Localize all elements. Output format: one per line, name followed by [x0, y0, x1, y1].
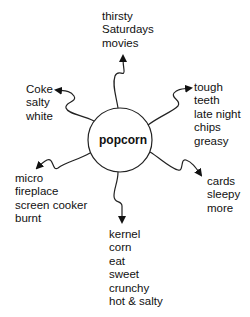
arrow-lower-right	[150, 152, 201, 175]
branch-word: tough	[194, 81, 241, 94]
branch-top: thirsty Saturdays movies	[102, 10, 154, 50]
arrow-upper-right	[148, 88, 191, 125]
branch-word: fireplace	[15, 185, 87, 198]
arrow-lower-left	[37, 153, 90, 169]
branch-word: crunchy	[109, 282, 163, 295]
branch-word: salty	[26, 96, 53, 109]
branch-word: greasy	[194, 135, 241, 148]
branch-word: movies	[102, 37, 154, 50]
branch-bottom: kernel corn eat sweet crunchy hot & salt…	[109, 228, 163, 308]
arrow-bottom	[114, 172, 122, 222]
branch-lower-left: micro fireplace screen cooker burnt	[15, 172, 87, 226]
arrow-upper-left	[56, 90, 94, 121]
branch-word: sweet	[109, 268, 163, 281]
arrow-top	[114, 56, 124, 108]
branch-word: sleepy	[207, 188, 240, 201]
branch-word: cards	[207, 175, 240, 188]
branch-word: burnt	[15, 212, 87, 225]
branch-word: Saturdays	[102, 23, 154, 36]
branch-word: late night	[194, 108, 241, 121]
branch-lower-right: cards sleepy more	[207, 175, 240, 215]
center-node-label: popcorn	[99, 133, 147, 147]
branch-upper-right: tough teeth late night chips greasy	[194, 81, 241, 148]
branch-word: chips	[194, 121, 241, 134]
branch-word: eat	[109, 255, 163, 268]
branch-word: kernel	[109, 228, 163, 241]
branch-word: teeth	[194, 94, 241, 107]
branch-upper-left: Coke salty white	[26, 83, 53, 123]
branch-word: hot & salty	[109, 295, 163, 308]
branch-word: Coke	[26, 83, 53, 96]
branch-word: white	[26, 110, 53, 123]
branch-word: corn	[109, 241, 163, 254]
branch-word: more	[207, 202, 240, 215]
branch-word: micro	[15, 172, 87, 185]
branch-word: screen cooker	[15, 199, 87, 212]
branch-word: thirsty	[102, 10, 154, 23]
